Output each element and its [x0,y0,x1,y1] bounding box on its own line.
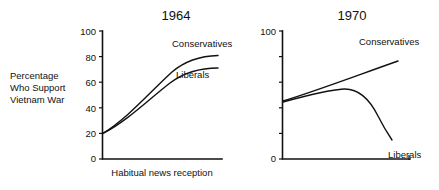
y-axis-title-line-3: Vietnam War [10,94,64,105]
y-tick-label-0: 0 [91,153,96,164]
two-panel-line-chart-figure: 1964 Percentage Who Support Vietnam War … [0,0,439,190]
panel-1964: 1964 Percentage Who Support Vietnam War … [10,8,232,178]
curve-1970-conservatives [283,61,398,101]
series-label-1970-liberals: Liberals [388,149,422,160]
y-tick-label-1970-100: 100 [260,26,276,37]
y-tick-label-20: 20 [85,128,96,139]
series-label-1964-conservatives: Conservatives [172,38,232,49]
y-tick-label-80: 80 [85,52,96,63]
panel-1964-axes [103,31,223,159]
curve-1964-conservatives [103,56,218,134]
y-axis-title-line-1: Percentage [10,70,59,81]
y-axis-title-line-2: Who Support [10,82,66,93]
y-tick-label-60: 60 [85,77,96,88]
panel-1970: 1970 100 0 Conservatives Liberals [260,8,421,164]
y-tick-label-100: 100 [80,26,96,37]
curve-1970-liberals [283,89,392,140]
panel-1964-title: 1964 [162,8,191,23]
series-label-1964-liberals: Liberals [176,69,210,80]
x-axis-title: Habitual news reception [111,167,212,178]
y-tick-label-40: 40 [85,103,96,114]
panel-1970-title: 1970 [338,8,367,23]
series-label-1970-conservatives: Conservatives [359,36,419,47]
y-tick-label-1970-0: 0 [271,153,276,164]
